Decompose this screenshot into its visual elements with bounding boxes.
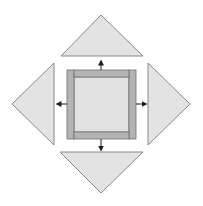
left-triangle <box>12 63 54 145</box>
right-strip <box>129 70 136 139</box>
top-strip <box>74 70 129 77</box>
center-block <box>67 70 136 139</box>
bottom-triangle <box>60 152 143 193</box>
left-strip <box>67 70 74 139</box>
top-triangle <box>61 15 143 56</box>
right-triangle <box>148 63 190 145</box>
bottom-strip <box>74 132 129 139</box>
quilt-block-diagram <box>0 0 203 206</box>
center-square <box>74 77 129 132</box>
